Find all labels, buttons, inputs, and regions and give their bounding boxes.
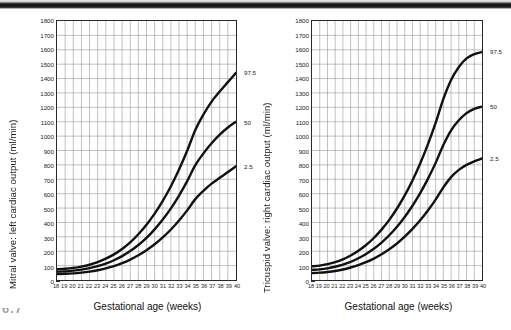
x-axis-tick-label: 27 <box>378 283 384 289</box>
y-axis-tick-label: 1000 <box>295 133 309 140</box>
chart-tricuspid-right-cardiac-output: Tricuspid valve: right cardiac output (m… <box>255 9 511 330</box>
y-axis-tick-label: 1000 <box>40 133 54 140</box>
y-axis-tick-label: 1300 <box>40 89 54 96</box>
x-axis-tick-label: 18 <box>53 283 59 289</box>
y-axis-tick-label: 1200 <box>40 104 54 111</box>
x-axis-tick-label: 29 <box>394 283 400 289</box>
centile-label-50: 50 <box>244 118 251 125</box>
x-axis-title: Gestational age (weeks) <box>40 301 255 312</box>
y-axis-tick-label: 1400 <box>40 75 54 82</box>
x-axis-tick-label: 25 <box>363 283 369 289</box>
y-axis-tick-label: 100 <box>44 263 54 270</box>
y-axis-tick-label: 600 <box>44 191 54 198</box>
x-axis-tick-labels: 1819202122232425262728293031323334353637… <box>56 283 237 295</box>
x-axis-tick-label: 24 <box>355 283 361 289</box>
x-axis-tick-label: 31 <box>160 283 166 289</box>
x-axis-tick-label: 34 <box>433 283 439 289</box>
x-axis-tick-labels: 1819202122232425262728293031323334353637… <box>311 283 483 295</box>
x-axis-tick-label: 27 <box>127 283 133 289</box>
y-axis-tick-label: 800 <box>299 162 309 169</box>
plot-grid-and-curves <box>312 21 482 280</box>
x-axis-tick-label: 25 <box>110 283 116 289</box>
y-axis-tick-label: 1200 <box>295 104 309 111</box>
x-axis-tick-label: 29 <box>143 283 149 289</box>
x-axis-tick-label: 37 <box>209 283 215 289</box>
y-axis-tick-label: 1600 <box>40 46 54 53</box>
y-axis-tick-label: 800 <box>44 162 54 169</box>
x-axis-tick-label: 26 <box>370 283 376 289</box>
scan-page-top-edge <box>0 0 511 9</box>
x-axis-tick-label: 21 <box>78 283 84 289</box>
x-axis-tick-label: 40 <box>234 283 240 289</box>
x-axis-tick-label: 30 <box>152 283 158 289</box>
y-axis-tick-label: 1800 <box>40 17 54 24</box>
x-axis-tick-label: 23 <box>94 283 100 289</box>
y-axis-tick-label: 900 <box>44 147 54 154</box>
plot-area <box>311 20 483 281</box>
y-axis-title: Tricuspid valve: right cardiac output (m… <box>261 31 272 293</box>
x-axis-title: Gestational age (weeks) <box>291 301 506 312</box>
y-axis-tick-label: 500 <box>44 205 54 212</box>
x-axis-tick-label: 35 <box>441 283 447 289</box>
y-axis-tick-label: 1300 <box>295 89 309 96</box>
x-axis-tick-label: 22 <box>339 283 345 289</box>
centile-label-2-5: 2.5 <box>490 155 499 162</box>
y-axis-tick-label: 400 <box>299 220 309 227</box>
centile-label-2-5: 2.5 <box>244 163 253 170</box>
y-axis-tick-label: 1700 <box>295 31 309 38</box>
y-axis-tick-label: 1100 <box>41 118 54 125</box>
x-axis-tick-label: 38 <box>217 283 223 289</box>
x-axis-tick-label: 37 <box>456 283 462 289</box>
y-axis-tick-label: 100 <box>299 263 309 270</box>
x-axis-tick-label: 32 <box>168 283 174 289</box>
y-axis-tick-label: 1800 <box>295 17 309 24</box>
y-axis-tick-label: 500 <box>299 205 309 212</box>
x-axis-tick-label: 32 <box>417 283 423 289</box>
figure-caption-fragment: 6.7 <box>0 308 60 330</box>
chart-mitral-left-cardiac-output: Mitral valve: left cardiac output (ml/mi… <box>0 9 256 330</box>
y-axis-tick-label: 300 <box>299 234 309 241</box>
y-axis-tick-label: 1100 <box>296 118 309 125</box>
y-axis-tick-mark <box>56 281 60 282</box>
x-axis-tick-label: 18 <box>308 283 314 289</box>
y-axis-tick-mark <box>311 281 315 282</box>
y-axis-tick-label: 700 <box>44 176 54 183</box>
centile-label-97-5: 97.5 <box>490 48 502 55</box>
y-axis-tick-label: 200 <box>44 249 54 256</box>
y-axis-tick-label: 300 <box>44 234 54 241</box>
x-axis-tick-label: 28 <box>135 283 141 289</box>
y-axis-tick-label: 700 <box>299 176 309 183</box>
y-axis-tick-label: 1500 <box>295 60 309 67</box>
figure-caption-text: 6.7 <box>2 308 60 316</box>
y-axis-title: Mitral valve: left cardiac output (ml/mi… <box>7 39 18 289</box>
y-axis-tick-label: 1700 <box>40 31 54 38</box>
x-axis-tick-label: 38 <box>464 283 470 289</box>
y-axis-tick-label: 1500 <box>40 60 54 67</box>
plot-area <box>56 20 237 281</box>
x-axis-tick-label: 40 <box>480 283 486 289</box>
plot-grid-and-curves <box>57 21 236 280</box>
x-axis-tick-label: 31 <box>410 283 416 289</box>
x-axis-tick-label: 19 <box>316 283 322 289</box>
x-axis-tick-label: 39 <box>226 283 232 289</box>
x-axis-tick-label: 30 <box>402 283 408 289</box>
x-axis-tick-label: 34 <box>185 283 191 289</box>
y-axis-tick-label: 900 <box>299 147 309 154</box>
y-axis-tick-labels: 0100200300400500600700800900100011001200… <box>279 20 309 281</box>
y-axis-tick-label: 1400 <box>295 75 309 82</box>
y-axis-tick-label: 400 <box>44 220 54 227</box>
x-axis-tick-label: 21 <box>331 283 337 289</box>
x-axis-tick-label: 22 <box>86 283 92 289</box>
y-axis-tick-labels: 0100200300400500600700800900100011001200… <box>24 20 54 281</box>
x-axis-tick-label: 35 <box>193 283 199 289</box>
x-axis-tick-label: 19 <box>61 283 67 289</box>
x-axis-tick-label: 20 <box>324 283 330 289</box>
x-axis-tick-label: 20 <box>69 283 75 289</box>
x-axis-tick-label: 24 <box>102 283 108 289</box>
x-axis-tick-label: 39 <box>472 283 478 289</box>
y-axis-tick-label: 200 <box>299 249 309 256</box>
x-axis-tick-label: 23 <box>347 283 353 289</box>
x-axis-tick-label: 36 <box>201 283 207 289</box>
x-axis-tick-label: 36 <box>449 283 455 289</box>
centile-label-50: 50 <box>490 103 497 110</box>
